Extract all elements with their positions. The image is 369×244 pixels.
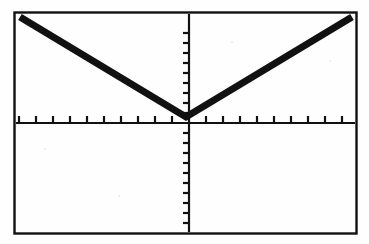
calculator-screenshot [0, 0, 369, 244]
graph-canvas [0, 0, 369, 244]
